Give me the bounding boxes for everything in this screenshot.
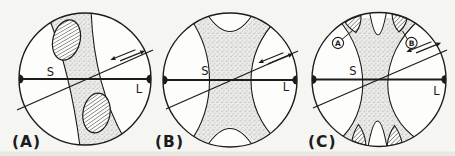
caption-a: (A) bbox=[12, 133, 41, 151]
caption-c: (C) bbox=[308, 133, 337, 151]
panel-c: A B S L (C) bbox=[307, 3, 450, 155]
callout-a-letter: A bbox=[335, 39, 341, 48]
panel-b: S L (B) bbox=[155, 4, 302, 155]
panel-a: S L (A) bbox=[12, 7, 156, 151]
caption-b: (B) bbox=[155, 133, 184, 151]
shear-zone-figure: S L (A) S L (B) bbox=[0, 0, 455, 155]
callout-b-letter: B bbox=[409, 39, 415, 48]
s-label-b: S bbox=[201, 64, 208, 78]
l-label-c: L bbox=[433, 84, 440, 98]
s-label-a: S bbox=[47, 65, 54, 79]
l-label-b: L bbox=[283, 80, 290, 94]
figure-canvas: S L (A) S L (B) bbox=[0, 0, 455, 155]
s-label-c: S bbox=[349, 64, 356, 78]
scan-smudge bbox=[0, 152, 455, 156]
l-label-a: L bbox=[136, 82, 143, 96]
